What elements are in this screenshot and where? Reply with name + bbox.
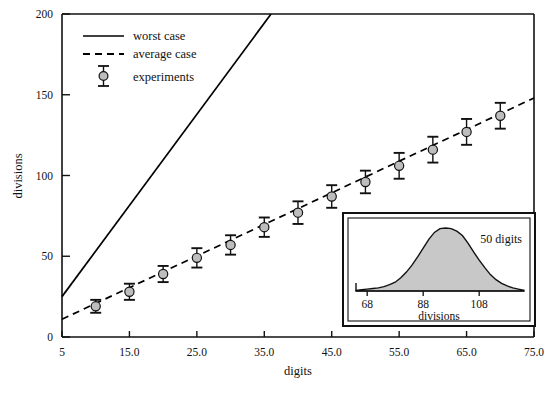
- y-tick-label-100: 100: [36, 170, 54, 182]
- x-tick-label-65.0: 65.0: [457, 346, 477, 358]
- x-tick-label-35.0: 35.0: [254, 346, 274, 358]
- x-tick-label-15.0: 15.0: [119, 346, 139, 358]
- chart-background: [0, 0, 559, 399]
- inset-title-50-digits: 50 digits: [480, 232, 522, 246]
- x-tick-label-25.0: 25.0: [187, 346, 207, 358]
- y-tick-label-150: 150: [36, 89, 54, 101]
- legend-label-average-case: average case: [133, 47, 197, 61]
- x-tick-label-5: 5: [59, 346, 65, 358]
- y-tick-label-50: 50: [42, 250, 54, 262]
- x-tick-label-75.0: 75.0: [524, 346, 544, 358]
- x-tick-label-55.0: 55.0: [389, 346, 409, 358]
- inset-tick-label-88: 88: [417, 298, 429, 310]
- legend-label-experiments: experiments: [133, 70, 194, 84]
- y-axis-label: divisions: [11, 153, 25, 198]
- x-axis-label: digits: [284, 364, 312, 378]
- inset-tick-label-108: 108: [471, 298, 489, 310]
- y-tick-label-200: 200: [36, 8, 54, 20]
- inset-x-axis-label: divisions: [418, 310, 460, 322]
- figure-chart-divisions-vs-digits: 515.025.035.045.055.065.075.0 0501001502…: [0, 0, 559, 399]
- inset-tick-label-68: 68: [361, 298, 373, 310]
- inset-histogram-panel: 6888108 divisions 50 digits: [343, 213, 535, 326]
- x-tick-label-45.0: 45.0: [322, 346, 342, 358]
- y-tick-label-0: 0: [47, 331, 53, 343]
- chart-canvas: 515.025.035.045.055.065.075.0 0501001502…: [0, 0, 559, 399]
- legend-label-worst-case: worst case: [133, 29, 186, 43]
